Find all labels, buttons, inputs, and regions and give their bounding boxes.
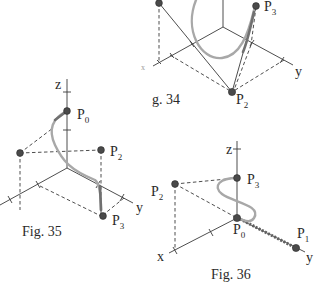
fig36-point-p3 <box>234 175 241 182</box>
fig34-point-p1 <box>156 0 163 6</box>
fig36-label-p1: P1 <box>297 226 309 244</box>
fig36-label-p3: P3 <box>247 172 260 190</box>
figure-35: z y P0 P2 P3 Fig. 35 <box>0 77 143 239</box>
fig35-y-label: y <box>136 200 143 215</box>
fig35-label-p0: P0 <box>77 107 90 125</box>
fig34-control-line-p1-p2 <box>159 3 232 92</box>
fig35-point-p3 <box>100 213 107 220</box>
figure-34: x y P3 P2 g. 34 <box>141 0 302 110</box>
figure-36: z x y P2 P3 P0 P1 Fig. 36 <box>151 141 313 282</box>
fig36-point-p2 <box>172 181 179 188</box>
fig36-y-label: y <box>306 250 313 265</box>
fig34-point-p2 <box>228 88 235 95</box>
fig34-label-p2: P2 <box>236 92 248 110</box>
fig36-point-p0 <box>233 214 240 221</box>
fig34-x-axis <box>153 27 223 66</box>
fig35-z-label: z <box>55 77 61 92</box>
fig35-caption: Fig. 35 <box>22 224 62 239</box>
fig36-label-p2: P2 <box>151 184 163 202</box>
fig34-label-p3: P3 <box>264 0 277 17</box>
fig34-x-label: x <box>141 63 145 72</box>
fig36-label-p0: P0 <box>233 222 246 240</box>
fig36-z-label: z <box>226 142 232 157</box>
fig34-point-p3 <box>253 3 260 10</box>
fig35-point-p0 <box>64 108 71 115</box>
fig35-label-p2: P2 <box>110 144 122 162</box>
bezier-figures-canvas: x y P3 P2 g. 34 z <box>0 0 319 283</box>
fig36-point-p1 <box>292 244 299 251</box>
fig36-x-label: x <box>157 249 164 264</box>
fig36-caption: Fig. 36 <box>211 267 251 282</box>
fig35-label-p3: P3 <box>112 213 125 231</box>
fig34-caption: g. 34 <box>152 92 180 107</box>
fig35-point-p1 <box>17 150 24 157</box>
fig35-point-p2 <box>98 147 105 154</box>
fig34-y-label: y <box>295 64 302 79</box>
fig36-x-axis <box>169 218 237 253</box>
